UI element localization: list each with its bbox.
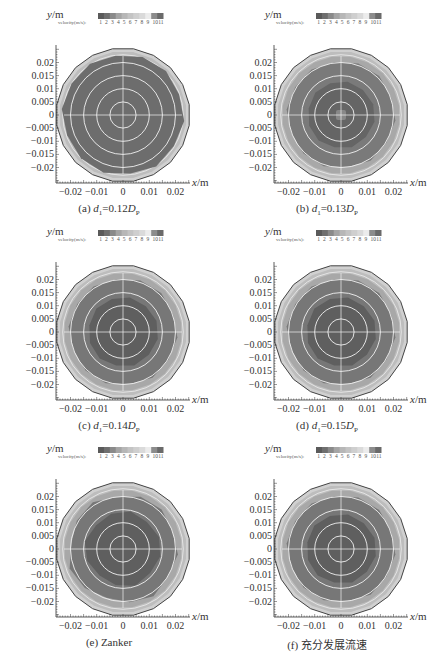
y-tick-label: 0: [0, 326, 54, 337]
y-tick-label: 0: [0, 543, 54, 554]
y-tick-label: 0.01: [218, 83, 272, 94]
legend-tick: 7: [135, 453, 138, 459]
legend-tick: 9: [365, 19, 368, 25]
contour-panel-f: y/mvelocity(m/s):12345678910110.020.0150…: [218, 434, 435, 649]
panel-caption: (a) d1=0.12DP: [0, 202, 218, 217]
y-axis-label: y/m: [265, 442, 282, 454]
y-tick-label: 0.005: [218, 530, 272, 541]
y-tick-label: 0.02: [218, 274, 272, 285]
legend-tick: 7: [135, 236, 138, 242]
contour-plot: [218, 217, 435, 432]
contour-panel-a: y/mvelocity(m/s):12345678910110.020.0150…: [0, 0, 218, 215]
y-tick-label: −0.015: [0, 148, 54, 159]
legend-tick: 7: [353, 236, 356, 242]
legend-tick: 5: [123, 453, 126, 459]
y-tick-label: −0.015: [0, 582, 54, 593]
y-tick-label: −0.015: [218, 365, 272, 376]
y-tick-label: 0.015: [218, 70, 272, 81]
y-tick-label: −0.005: [218, 556, 272, 567]
y-tick-label: −0.01: [0, 352, 54, 363]
contour-panel-d: y/mvelocity(m/s):12345678910110.020.0150…: [218, 217, 435, 432]
legend-label: velocity(m/s):: [276, 454, 304, 459]
contour-plot: [0, 434, 218, 649]
legend-tick: 9: [147, 236, 150, 242]
legend-label: velocity(m/s):: [276, 20, 304, 25]
y-tick-label: −0.005: [0, 339, 54, 350]
legend-tick: 9: [147, 19, 150, 25]
y-tick-label: 0.02: [0, 274, 54, 285]
legend-tick: 6: [129, 453, 132, 459]
legend-tick: 8: [141, 453, 144, 459]
x-tick-label: 0.02: [379, 186, 409, 197]
legend-tick: 10: [152, 236, 158, 242]
legend-tick: 3: [111, 236, 114, 242]
y-axis-label: y/m: [265, 8, 282, 20]
x-tick-label: 0.02: [379, 620, 409, 631]
legend-label: velocity(m/s):: [58, 20, 86, 25]
y-tick-label: −0.02: [218, 162, 272, 173]
legend-tick: 3: [329, 236, 332, 242]
legend-tick: 10: [370, 19, 376, 25]
y-tick-label: −0.01: [218, 135, 272, 146]
legend-tick: 8: [141, 236, 144, 242]
y-tick-label: −0.005: [0, 122, 54, 133]
y-tick-label: 0.005: [0, 530, 54, 541]
y-tick-label: −0.015: [0, 365, 54, 376]
panel-caption: (d) d1=0.15DP: [218, 419, 435, 434]
legend-tick: 3: [329, 453, 332, 459]
legend-tick: 11: [158, 236, 163, 242]
legend-tick: 4: [335, 453, 338, 459]
y-tick-label: −0.015: [218, 582, 272, 593]
y-tick-label: 0: [218, 109, 272, 120]
y-tick-label: 0.005: [0, 313, 54, 324]
legend-tick: 11: [158, 453, 163, 459]
y-axis-label: y/m: [265, 225, 282, 237]
legend-tick: 4: [335, 236, 338, 242]
legend-tick: 10: [370, 236, 376, 242]
y-tick-label: 0.015: [218, 504, 272, 515]
y-tick-label: 0.01: [0, 517, 54, 528]
y-axis-label: y/m: [47, 442, 64, 454]
legend-tick: 1: [317, 19, 320, 25]
legend-tick: 6: [129, 19, 132, 25]
panel-caption: (f) 充分发展流速: [218, 636, 435, 652]
x-axis-label: x/m: [410, 393, 427, 405]
legend-tick: 2: [105, 19, 108, 25]
legend-tick: 1: [99, 236, 102, 242]
y-tick-label: 0.02: [0, 57, 54, 68]
y-tick-label: 0.01: [0, 300, 54, 311]
y-tick-label: −0.01: [218, 352, 272, 363]
x-axis-label: x/m: [192, 176, 209, 188]
y-tick-label: 0: [218, 543, 272, 554]
y-tick-label: −0.01: [0, 569, 54, 580]
y-tick-label: 0: [218, 326, 272, 337]
legend-tick: 7: [135, 19, 138, 25]
y-tick-label: 0.02: [218, 491, 272, 502]
x-tick-label: 0.02: [161, 403, 191, 414]
legend-tick: 6: [347, 19, 350, 25]
legend-tick: 7: [353, 19, 356, 25]
legend-tick: 2: [105, 453, 108, 459]
legend-tick: 5: [341, 453, 344, 459]
x-axis-label: x/m: [192, 610, 209, 622]
contour-plot: [0, 217, 218, 432]
y-tick-label: 0.015: [0, 504, 54, 515]
legend-tick: 11: [376, 453, 381, 459]
y-tick-label: 0: [0, 109, 54, 120]
y-axis-label: y/m: [47, 8, 64, 20]
legend-label: velocity(m/s):: [58, 454, 86, 459]
y-tick-label: 0.015: [0, 287, 54, 298]
y-tick-label: −0.02: [0, 162, 54, 173]
legend-tick: 4: [335, 19, 338, 25]
x-axis-label: x/m: [192, 393, 209, 405]
y-tick-label: 0.015: [218, 287, 272, 298]
legend-tick: 5: [123, 19, 126, 25]
contour-panel-c: y/mvelocity(m/s):12345678910110.020.0150…: [0, 217, 218, 432]
x-tick-label: 0.02: [161, 620, 191, 631]
y-tick-label: −0.02: [0, 596, 54, 607]
legend-tick: 5: [341, 19, 344, 25]
legend-tick: 8: [359, 236, 362, 242]
legend-tick: 5: [123, 236, 126, 242]
legend-tick: 2: [323, 236, 326, 242]
legend-tick: 11: [158, 19, 163, 25]
